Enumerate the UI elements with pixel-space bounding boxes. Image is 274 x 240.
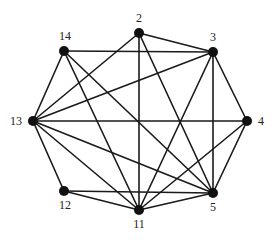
edges-layer [33, 33, 247, 210]
edge-5-4 [213, 121, 247, 193]
node-5 [208, 188, 218, 198]
node-label-14: 14 [59, 29, 71, 43]
node-label-13: 13 [10, 114, 22, 128]
node-label-3: 3 [210, 30, 216, 44]
node-12 [59, 186, 69, 196]
edge-11-4 [139, 121, 247, 210]
graph-diagram: 234511121314 [0, 0, 274, 240]
graph-canvas: 234511121314 [0, 0, 274, 240]
node-13 [28, 116, 38, 126]
node-3 [208, 47, 218, 57]
edge-12-5 [64, 191, 213, 193]
node-2 [134, 28, 144, 38]
node-label-2: 2 [136, 11, 142, 25]
node-label-11: 11 [133, 217, 145, 231]
node-11 [134, 205, 144, 215]
edge-3-4 [213, 52, 247, 121]
edge-14-11 [64, 51, 139, 210]
node-label-4: 4 [258, 114, 264, 128]
node-label-12: 12 [59, 198, 71, 212]
node-14 [59, 46, 69, 56]
edge-2-3 [139, 33, 213, 52]
node-4 [242, 116, 252, 126]
node-label-5: 5 [210, 200, 216, 214]
